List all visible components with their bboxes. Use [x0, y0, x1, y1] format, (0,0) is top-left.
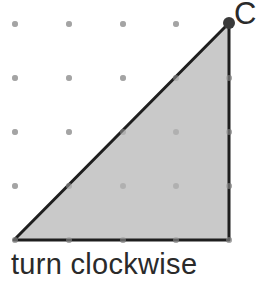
- grid-dot: [173, 129, 179, 135]
- grid-dot: [173, 75, 179, 81]
- grid-dot: [120, 75, 126, 81]
- grid-dot: [12, 183, 18, 189]
- grid-dot: [226, 183, 232, 189]
- grid-dot: [226, 129, 232, 135]
- grid-dot: [12, 237, 18, 243]
- grid-dot: [66, 237, 72, 243]
- grid-dot: [12, 75, 18, 81]
- grid-dot: [173, 183, 179, 189]
- grid-dot: [173, 21, 179, 27]
- grid-dot: [12, 129, 18, 135]
- grid-dot: [12, 21, 18, 27]
- caption-text: turn clockwise: [11, 248, 197, 281]
- grid-dot: [66, 183, 72, 189]
- grid-dot: [120, 21, 126, 27]
- dot-grid-diagram: [0, 0, 258, 286]
- grid-dot: [226, 75, 232, 81]
- grid-dot: [120, 237, 126, 243]
- grid-dot: [66, 21, 72, 27]
- grid-dot: [66, 129, 72, 135]
- grid-dot: [120, 129, 126, 135]
- grid-dot: [120, 183, 126, 189]
- point-c-label: C: [234, 0, 256, 32]
- grid-dot: [226, 237, 232, 243]
- grid-dot: [66, 75, 72, 81]
- grid-dot: [173, 237, 179, 243]
